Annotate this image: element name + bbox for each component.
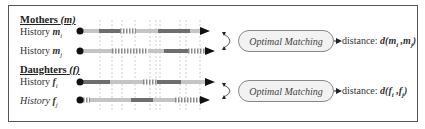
optimal-matching-mothers: Optimal Matching (238, 30, 334, 52)
optimal-matching-daughters: Optimal Matching (238, 80, 334, 102)
arrowhead-icon (200, 96, 210, 104)
arrowhead-icon (205, 47, 215, 55)
arrowhead-icon (200, 27, 210, 35)
bracket-arc (224, 34, 230, 48)
arrow-tip-icon (222, 32, 226, 36)
arrow-tip-icon (222, 83, 226, 87)
arrow-tip-icon (222, 95, 226, 99)
bracket-arc (224, 85, 230, 97)
start-dot-icon (77, 48, 84, 55)
timeline-diagram (0, 0, 425, 129)
distance-mothers: distance: d(mi ,mj) (342, 35, 416, 49)
arrow-tip-icon (222, 46, 226, 50)
distance-daughters: distance: d(fi ,fj) (342, 85, 407, 99)
start-dot-icon (77, 97, 84, 104)
start-dot-icon (77, 28, 84, 35)
start-dot-icon (77, 79, 84, 86)
arrowhead-icon (205, 78, 215, 86)
